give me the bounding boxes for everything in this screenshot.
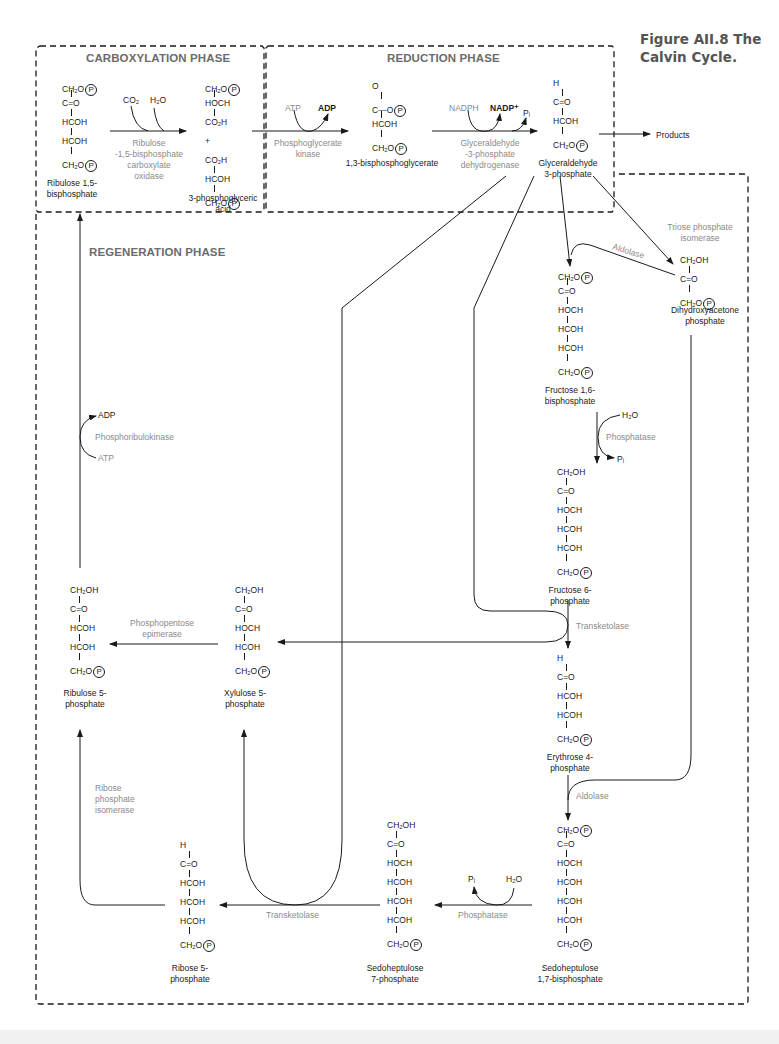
formula-row: CH₂OP [558, 272, 593, 284]
cofactor-nadp: NADP⁺ [490, 103, 519, 113]
enzyme-transketolase-2: Transketolase [266, 910, 319, 921]
phosphate-circle-icon: P [576, 140, 588, 152]
cofactor-pi-3: Pᵢ [468, 874, 475, 884]
cofactor-pi-2: Pᵢ [617, 454, 624, 464]
bond-line [381, 130, 382, 137]
bond-line [214, 109, 215, 116]
bond-line [396, 888, 397, 895]
bond-line [396, 831, 397, 838]
bond-line [79, 615, 80, 622]
phosphate-circle-icon: P [395, 143, 407, 155]
bond-line [566, 535, 567, 542]
bond-line [566, 850, 567, 857]
bond-line [71, 90, 72, 97]
bond-line [189, 908, 190, 915]
bond-line [566, 926, 567, 933]
cofactor-h2o-1: H₂O [150, 95, 166, 105]
figure-label: Figure AII.8 [640, 31, 729, 47]
phosphate-circle-icon: P [580, 567, 592, 579]
bond-line [381, 92, 382, 99]
phosphate-circle-icon: P [228, 84, 240, 96]
formula-row: CH₂OP [62, 160, 97, 172]
phosphate-circle-icon: P [85, 160, 97, 172]
bond-line [567, 297, 568, 304]
bond-line [244, 653, 245, 660]
phosphate-circle-icon: P [580, 939, 592, 951]
bond-line [567, 354, 568, 361]
formula-row: CH₂OP [205, 198, 240, 210]
molecule-name-e4p: Erythrose 4-phosphate [530, 752, 610, 774]
cofactor-adp-1: ADP [318, 103, 336, 113]
formula-row: CH₂OP [557, 734, 592, 746]
bond-line [689, 266, 690, 273]
figure-caption: Figure AII.8 The Calvin Cycle. [640, 30, 761, 66]
bond-line [567, 278, 568, 285]
molecule-name-ru5p: Ribulose 5-phosphate [45, 688, 125, 710]
bond-line [79, 653, 80, 660]
bond-line [214, 166, 215, 173]
formula-row: CH₂OP [553, 140, 588, 152]
phosphate-circle-icon: P [394, 105, 406, 117]
enzyme-phosphopentose-epimerase: Phosphopentoseepimerase [122, 618, 202, 640]
formula-row: CH₂OP [557, 567, 592, 579]
molecule-name-g3p: Glyceraldehyde3-phosphate [528, 158, 608, 180]
phosphate-circle-icon: P [258, 666, 270, 678]
cofactor-h2o-3: H₂O [506, 874, 522, 884]
enzyme-phosphoglycerate-kinase: Phosphoglyceratekinase [268, 138, 348, 160]
cofactor-co2: CO₂ [123, 95, 139, 105]
formula-row: CH₂OP [558, 367, 593, 379]
formula-row: CH₂OP [372, 143, 407, 155]
bond-line [566, 869, 567, 876]
formula-row: CH₂OP [205, 84, 240, 96]
molecule-name-r5p: Ribose 5-phosphate [150, 963, 230, 985]
phosphate-circle-icon: P [580, 734, 592, 746]
bond-line [189, 851, 190, 858]
phosphate-circle-icon: P [580, 825, 592, 837]
bond-line [396, 869, 397, 876]
cofactor-atp-2: ATP [98, 453, 114, 463]
bond-line [566, 478, 567, 485]
phosphate-circle-icon: P [85, 84, 97, 96]
enzyme-transketolase-1: Transketolase [576, 621, 629, 632]
phosphate-circle-icon: P [410, 939, 422, 951]
formula-row: CH₂OP [180, 940, 215, 952]
bond-line [566, 721, 567, 728]
formula-row: CH₂OP [235, 666, 270, 678]
bond-line [396, 926, 397, 933]
products-label: Products [656, 130, 690, 140]
cofactor-pi-1: Pᵢ [523, 108, 530, 118]
formula-row: C—OP [372, 105, 406, 117]
bond-line [214, 185, 215, 192]
reduction-phase-title: REDUCTION PHASE [387, 52, 500, 64]
bond-line [189, 870, 190, 877]
molecule-name-rubp: Ribulose 1,5-bisphosphate [22, 178, 122, 200]
bond-line [79, 634, 80, 641]
bond-line [562, 89, 563, 96]
bond-line [689, 285, 690, 292]
bond-line [566, 516, 567, 523]
bond-line [562, 108, 563, 115]
enzyme-phosphoribulokinase: Phosphoribulokinase [95, 432, 174, 443]
molecule-name-s7p: Sedoheptulose7-phosphate [350, 963, 440, 985]
molecule-name-bpg: 1,3-bisphosphoglycerate [337, 158, 447, 169]
bond-line [79, 596, 80, 603]
regeneration-phase-title: REGENERATION PHASE [89, 246, 225, 258]
formula-row: CH₂OP [387, 939, 422, 951]
bond-line [566, 888, 567, 895]
bond-line [567, 335, 568, 342]
bond-line [567, 316, 568, 323]
bond-line [244, 596, 245, 603]
bond-line [566, 683, 567, 690]
figure-title-the: The [733, 31, 761, 47]
enzyme-triose-phosphate-isomerase: Triose phosphateisomerase [660, 222, 740, 244]
formula-row: CH₂OP [70, 666, 105, 678]
phosphate-circle-icon: P [228, 198, 240, 210]
bond-line [189, 889, 190, 896]
phosphate-circle-icon: P [703, 298, 715, 310]
cofactor-atp-1: ATP [285, 103, 301, 113]
bond-line [381, 111, 382, 118]
bond-line [562, 127, 563, 134]
molecule-name-xu5p: Xylulose 5-phosphate [205, 688, 285, 710]
bond-line [566, 702, 567, 709]
bond-line [71, 147, 72, 154]
